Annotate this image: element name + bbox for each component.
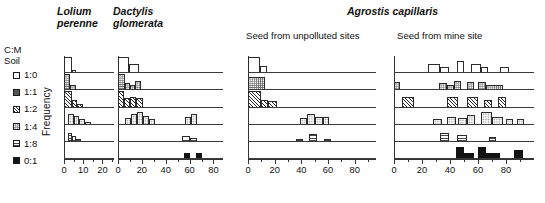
histogram-bar bbox=[506, 119, 513, 124]
plot-area bbox=[394, 56, 534, 159]
histogram-bar bbox=[118, 74, 125, 90]
row-band-1-2 bbox=[118, 90, 223, 107]
histogram-bar bbox=[248, 57, 260, 73]
panel-title-dactylis: Dactylis glomerata bbox=[113, 6, 163, 29]
histogram-bar bbox=[323, 117, 330, 123]
histogram-bar bbox=[454, 81, 461, 89]
row-band-1-1 bbox=[248, 73, 376, 90]
histogram-bar bbox=[136, 98, 143, 107]
x-axis-tick bbox=[394, 159, 395, 164]
histogram-bar bbox=[457, 135, 467, 141]
histogram-bar bbox=[498, 97, 506, 106]
x-axis-tick bbox=[450, 159, 451, 164]
row-band-1-4 bbox=[118, 108, 223, 125]
histogram-bar bbox=[458, 118, 466, 124]
histogram-bar bbox=[64, 91, 72, 107]
x-axis-minor-tick bbox=[464, 159, 465, 162]
legend-item-label: 1:8 bbox=[24, 139, 37, 149]
x-axis-tick bbox=[118, 159, 119, 164]
histogram-bar bbox=[315, 117, 323, 123]
histogram-bar bbox=[85, 122, 91, 124]
histogram-bar bbox=[447, 85, 454, 89]
x-axis-tick-label: 60 bbox=[473, 165, 483, 175]
histogram-bar bbox=[149, 119, 155, 124]
histogram-bar bbox=[77, 104, 83, 107]
panel-3: 020406080 bbox=[248, 56, 376, 159]
histogram-bar bbox=[260, 66, 267, 72]
x-axis-tick bbox=[142, 159, 143, 164]
panel-4: 020406080 bbox=[394, 56, 534, 159]
x-axis-tick bbox=[64, 159, 65, 164]
x-axis-tick-label: 40 bbox=[445, 165, 455, 175]
histogram-bar bbox=[467, 97, 478, 106]
histogram-bar bbox=[467, 115, 475, 124]
row-band-1-4 bbox=[394, 108, 534, 125]
horizontal-line-square-icon bbox=[13, 140, 20, 147]
histogram-bar bbox=[478, 147, 486, 158]
histogram-bar bbox=[428, 64, 441, 72]
panel-title-lolium-line1: Lolium bbox=[57, 6, 98, 18]
histogram-bar bbox=[135, 81, 141, 90]
x-axis-tick-label: 20 bbox=[269, 165, 279, 175]
plot-area bbox=[64, 56, 114, 159]
histogram-bar bbox=[191, 114, 197, 124]
plot-area bbox=[248, 56, 376, 159]
x-axis-tick bbox=[328, 159, 329, 164]
histogram-bar bbox=[486, 85, 503, 90]
histogram-bar bbox=[471, 64, 481, 72]
histogram-bar bbox=[248, 91, 261, 107]
legend-item-label: 1:4 bbox=[24, 122, 37, 132]
row-band-1-8 bbox=[118, 125, 223, 142]
histogram-bar bbox=[440, 133, 448, 141]
x-axis-minor-tick bbox=[368, 159, 369, 162]
x-axis-minor-tick bbox=[261, 159, 262, 162]
histogram-bar bbox=[268, 101, 277, 106]
histogram-bar bbox=[433, 119, 441, 124]
panel-title-dactylis-line2: glomerata bbox=[113, 18, 163, 30]
histogram-bar bbox=[440, 67, 448, 72]
legend-item-label: 0:1 bbox=[24, 156, 37, 166]
plot-area bbox=[118, 56, 223, 159]
x-axis-minor-tick bbox=[341, 159, 342, 162]
x-axis-minor-tick bbox=[130, 159, 131, 162]
x-axis-tick-label: 80 bbox=[349, 165, 359, 175]
light-stipple-square-icon bbox=[13, 123, 20, 130]
x-axis-tick-label: 60 bbox=[323, 165, 333, 175]
row-band-1-8 bbox=[248, 125, 376, 142]
x-axis-tick-label: 0 bbox=[115, 165, 120, 175]
row-band-1-0 bbox=[118, 56, 223, 73]
histogram-bar bbox=[190, 138, 197, 141]
legend-item-label: 1:2 bbox=[24, 104, 37, 114]
row-band-0-1 bbox=[64, 142, 114, 159]
row-band-1-0 bbox=[248, 56, 376, 73]
histogram-bar bbox=[196, 153, 202, 158]
row-band-1-4 bbox=[64, 108, 114, 125]
fine-dotted-square-icon bbox=[13, 89, 20, 96]
x-axis-tick bbox=[355, 159, 356, 164]
row-band-1-1 bbox=[64, 73, 114, 90]
solid-black-square-icon bbox=[13, 157, 20, 164]
histogram-bar bbox=[70, 85, 76, 89]
histogram-bar bbox=[514, 150, 522, 158]
histogram-bar bbox=[484, 100, 492, 107]
histogram-bar bbox=[261, 100, 268, 107]
histogram-bar bbox=[324, 139, 331, 141]
histogram-bar bbox=[309, 134, 317, 141]
histogram-bar bbox=[394, 82, 400, 90]
x-axis-tick bbox=[301, 159, 302, 164]
row-band-1-1 bbox=[394, 73, 534, 90]
histogram-bar bbox=[118, 57, 129, 73]
x-axis-tick-label: 20 bbox=[417, 165, 427, 175]
histogram-bar bbox=[439, 83, 447, 89]
histogram-bar bbox=[478, 82, 486, 90]
x-axis-minor-tick bbox=[93, 159, 94, 162]
x-axis-minor-tick bbox=[520, 159, 521, 162]
histogram-bar bbox=[456, 147, 464, 158]
x-axis-minor-tick bbox=[492, 159, 493, 162]
histogram-bar bbox=[467, 82, 474, 89]
x-axis-tick bbox=[166, 159, 167, 164]
x-axis-tick-label: 0 bbox=[245, 165, 250, 175]
histogram-bar bbox=[500, 67, 508, 72]
x-axis-minor-tick bbox=[315, 159, 316, 162]
x-axis-tick bbox=[478, 159, 479, 164]
